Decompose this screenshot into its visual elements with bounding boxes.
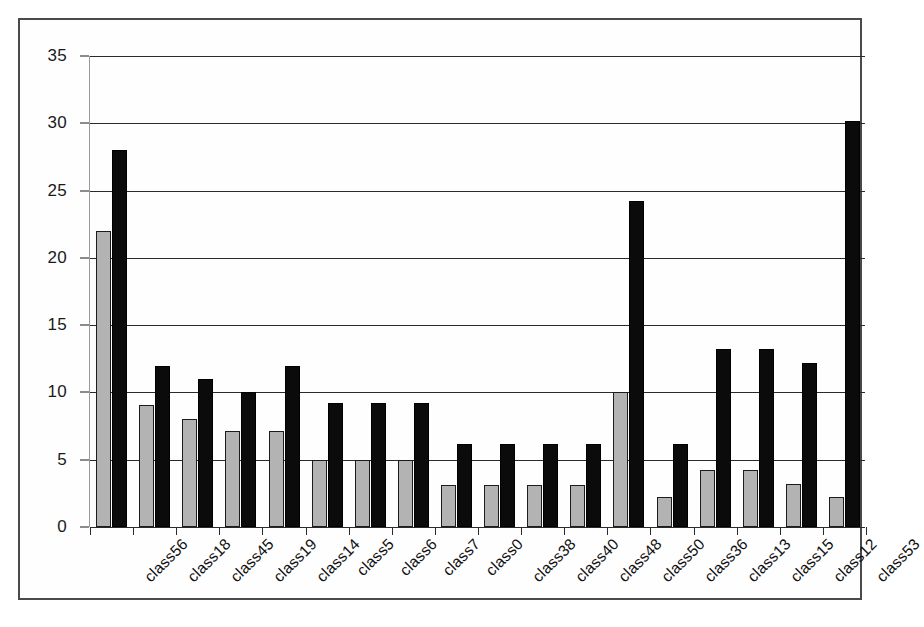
chart-outer-frame: 05101520253035 class56class18class45clas… <box>18 18 862 600</box>
bar-series-black <box>802 363 817 527</box>
bar-series-black <box>112 150 127 527</box>
y-axis-tick-label: 5 <box>23 450 67 470</box>
y-axis-tick-mark <box>80 190 89 191</box>
gridline <box>90 123 865 124</box>
x-axis-category-label: class0 <box>483 535 528 580</box>
bar-series-gray <box>355 460 370 527</box>
gridline <box>90 325 865 326</box>
x-axis-category-label: class15 <box>787 535 838 586</box>
x-axis-labels: class56class18class45class19class14class… <box>89 527 865 617</box>
gridline <box>90 56 865 57</box>
y-axis-tick-mark <box>80 56 89 57</box>
bar-series-gray <box>527 485 542 527</box>
y-axis-tick-label: 20 <box>23 248 67 268</box>
gridline <box>90 258 865 259</box>
gridline <box>90 191 865 192</box>
x-axis-category-label: class56 <box>140 535 191 586</box>
bar-series-black <box>457 444 472 527</box>
bar-series-gray <box>829 497 844 527</box>
x-axis-tick-mark <box>866 527 867 535</box>
y-axis-tick-mark <box>80 527 89 528</box>
y-axis-tick-mark <box>80 257 89 258</box>
bar-series-gray <box>613 392 628 527</box>
bar-series-gray <box>743 470 758 527</box>
bar-series-gray <box>182 419 197 527</box>
x-axis-category-label: class7 <box>440 535 485 580</box>
y-axis-tick-mark <box>80 123 89 124</box>
bar-series-black <box>285 366 300 527</box>
bar-series-black <box>241 392 256 527</box>
x-axis-category-label: class53 <box>873 535 924 586</box>
x-axis-category-label: class48 <box>615 535 666 586</box>
bar-series-gray <box>657 497 672 527</box>
y-axis: 05101520253035 <box>20 56 89 527</box>
x-axis-category-label: class12 <box>830 535 881 586</box>
x-axis-category-label: class36 <box>701 535 752 586</box>
y-axis-tick-mark <box>80 392 89 393</box>
x-axis-category-label: class14 <box>313 535 364 586</box>
y-axis-tick-label: 25 <box>23 181 67 201</box>
y-axis-tick-mark <box>80 459 89 460</box>
bar-series-gray <box>786 484 801 527</box>
x-axis-category-label: class13 <box>744 535 795 586</box>
bar-series-black <box>500 444 515 527</box>
bar-series-black <box>586 444 601 527</box>
y-axis-tick-mark <box>80 325 89 326</box>
bar-series-gray <box>225 431 240 527</box>
bar-series-gray <box>312 460 327 527</box>
y-axis-tick-label: 10 <box>23 382 67 402</box>
y-axis-tick-label: 30 <box>23 113 67 133</box>
y-axis-tick-label: 15 <box>23 315 67 335</box>
x-axis-category-label: class38 <box>528 535 579 586</box>
bar-series-gray <box>96 231 111 527</box>
bar-series-black <box>198 379 213 527</box>
bar-series-black <box>371 403 386 527</box>
bar-series-black <box>414 403 429 527</box>
bar-series-black <box>759 349 774 527</box>
x-axis-category-label: class45 <box>227 535 278 586</box>
bar-series-gray <box>269 431 284 527</box>
x-axis-category-label: class18 <box>183 535 234 586</box>
bar-series-gray <box>484 485 499 527</box>
x-axis-category-label: class50 <box>658 535 709 586</box>
x-axis-category-label: class19 <box>270 535 321 586</box>
bar-series-black <box>543 444 558 527</box>
bar-series-black <box>328 403 343 527</box>
y-axis-tick-label: 35 <box>23 46 67 66</box>
x-axis-category-label: class5 <box>353 535 398 580</box>
bar-series-black <box>845 121 860 527</box>
plot-area <box>89 56 865 527</box>
bar-series-gray <box>139 405 154 527</box>
bar-series-black <box>629 201 644 527</box>
x-axis-category-label: class40 <box>571 535 622 586</box>
bar-series-black <box>155 366 170 527</box>
bar-series-black <box>716 349 731 527</box>
bar-series-gray <box>441 485 456 527</box>
bar-series-gray <box>570 485 585 527</box>
bar-series-black <box>673 444 688 527</box>
bar-series-gray <box>398 460 413 527</box>
y-axis-tick-label: 0 <box>23 517 67 537</box>
x-axis-category-label: class6 <box>396 535 441 580</box>
bar-series-gray <box>700 470 715 527</box>
